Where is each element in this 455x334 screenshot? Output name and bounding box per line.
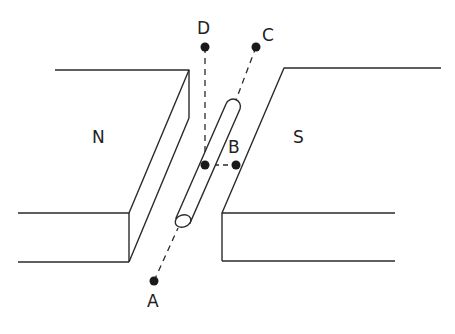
point-d-label: D	[197, 18, 210, 38]
south-magnet	[222, 68, 441, 261]
point-c-label: C	[262, 25, 274, 45]
point-d-dot	[201, 43, 210, 52]
south-magnet-top-face	[222, 68, 441, 213]
point-b-right-dot	[232, 161, 241, 170]
dashed-line-a	[154, 228, 178, 281]
north-magnet	[18, 70, 189, 262]
point-c-dot	[252, 43, 261, 52]
dashed-line-c	[236, 47, 256, 100]
point-b-label: B	[228, 137, 240, 157]
magnet-diagram: N S A B C D	[0, 0, 455, 334]
south-label: S	[293, 127, 304, 147]
point-a-dot	[150, 277, 159, 286]
north-label: N	[92, 127, 105, 147]
point-a-label: A	[147, 291, 159, 311]
point-b-left-dot	[201, 161, 210, 170]
